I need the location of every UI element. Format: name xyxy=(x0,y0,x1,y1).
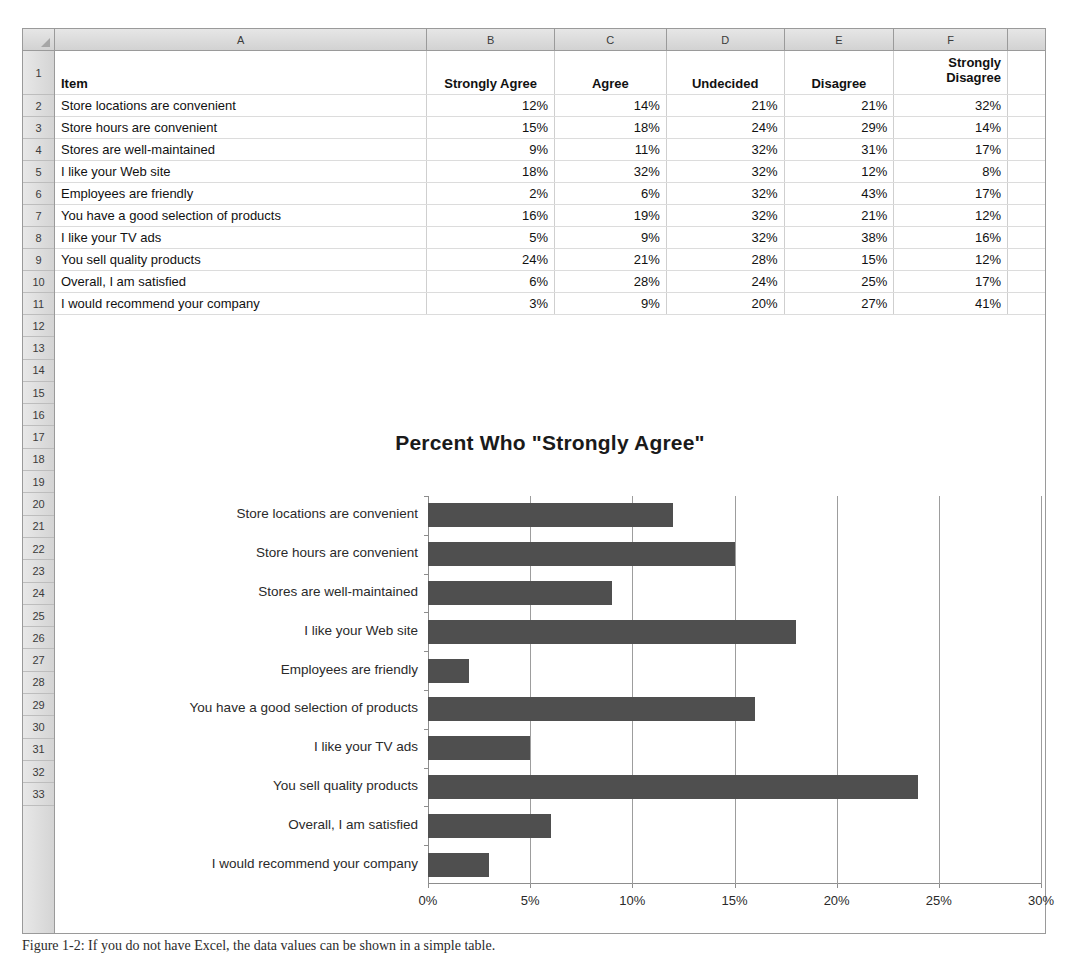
row-number-27[interactable]: 27 xyxy=(23,649,54,671)
cell-e8[interactable]: 38% xyxy=(785,227,895,248)
cell-c6[interactable]: 6% xyxy=(555,183,667,204)
row-number-3[interactable]: 3 xyxy=(23,117,54,139)
row-number-9[interactable]: 9 xyxy=(23,249,54,271)
header-cell-g1[interactable] xyxy=(1008,51,1045,94)
column-header-d[interactable]: D xyxy=(667,29,785,50)
header-cell-d1[interactable]: Undecided xyxy=(667,51,785,94)
row-number-16[interactable]: 16 xyxy=(23,404,54,426)
table-row[interactable]: I like your TV ads5%9%32%38%16% xyxy=(55,227,1045,249)
cell-d10[interactable]: 24% xyxy=(667,271,785,292)
cell-d6[interactable]: 32% xyxy=(667,183,785,204)
table-row[interactable]: Store locations are convenient12%14%21%2… xyxy=(55,95,1045,117)
cell-e4[interactable]: 31% xyxy=(785,139,895,160)
row-number-23[interactable]: 23 xyxy=(23,560,54,582)
cell-e3[interactable]: 29% xyxy=(785,117,895,138)
column-header-e[interactable]: E xyxy=(785,29,895,50)
cell-c10[interactable]: 28% xyxy=(555,271,667,292)
row-number-22[interactable]: 22 xyxy=(23,538,54,560)
chart-bar[interactable] xyxy=(428,620,796,644)
cell-b11[interactable]: 3% xyxy=(427,293,555,314)
cell-a9[interactable]: You sell quality products xyxy=(55,249,427,270)
row-number-10[interactable]: 10 xyxy=(23,271,54,293)
cell-f8[interactable]: 16% xyxy=(894,227,1008,248)
table-row[interactable]: Store hours are convenient15%18%24%29%14… xyxy=(55,117,1045,139)
cell-d5[interactable]: 32% xyxy=(667,161,785,182)
cell-b3[interactable]: 15% xyxy=(427,117,555,138)
cell-g3[interactable] xyxy=(1008,117,1045,138)
cell-g8[interactable] xyxy=(1008,227,1045,248)
cell-c8[interactable]: 9% xyxy=(555,227,667,248)
table-row[interactable]: You sell quality products24%21%28%15%12% xyxy=(55,249,1045,271)
cell-e11[interactable]: 27% xyxy=(785,293,895,314)
chart-bar[interactable] xyxy=(428,503,673,527)
cell-b6[interactable]: 2% xyxy=(427,183,555,204)
row-number-7[interactable]: 7 xyxy=(23,205,54,227)
cell-d2[interactable]: 21% xyxy=(667,95,785,116)
cell-g10[interactable] xyxy=(1008,271,1045,292)
cell-a6[interactable]: Employees are friendly xyxy=(55,183,427,204)
column-header-f[interactable]: F xyxy=(894,29,1008,50)
column-header-g[interactable] xyxy=(1008,29,1045,50)
cell-f5[interactable]: 8% xyxy=(894,161,1008,182)
row-number-1[interactable]: 1 xyxy=(23,51,54,95)
row-number-31[interactable]: 31 xyxy=(23,739,54,761)
row-number-12[interactable]: 12 xyxy=(23,315,54,337)
cell-c5[interactable]: 32% xyxy=(555,161,667,182)
column-header-c[interactable]: C xyxy=(555,29,667,50)
row-number-21[interactable]: 21 xyxy=(23,516,54,538)
cell-a8[interactable]: I like your TV ads xyxy=(55,227,427,248)
cell-e9[interactable]: 15% xyxy=(785,249,895,270)
row-number-4[interactable]: 4 xyxy=(23,139,54,161)
cell-f9[interactable]: 12% xyxy=(894,249,1008,270)
chart-bar[interactable] xyxy=(428,542,735,566)
select-all-corner[interactable] xyxy=(23,29,55,50)
row-number-18[interactable]: 18 xyxy=(23,449,54,471)
cell-e5[interactable]: 12% xyxy=(785,161,895,182)
cell-e6[interactable]: 43% xyxy=(785,183,895,204)
cell-b4[interactable]: 9% xyxy=(427,139,555,160)
table-row[interactable]: Stores are well-maintained9%11%32%31%17% xyxy=(55,139,1045,161)
cell-g6[interactable] xyxy=(1008,183,1045,204)
cell-c7[interactable]: 19% xyxy=(555,205,667,226)
cell-d3[interactable]: 24% xyxy=(667,117,785,138)
cell-g2[interactable] xyxy=(1008,95,1045,116)
chart-bar[interactable] xyxy=(428,853,489,877)
chart-bar[interactable] xyxy=(428,581,612,605)
cell-g9[interactable] xyxy=(1008,249,1045,270)
row-number-20[interactable]: 20 xyxy=(23,493,54,515)
row-number-32[interactable]: 32 xyxy=(23,761,54,783)
row-number-15[interactable]: 15 xyxy=(23,382,54,404)
chart-bar[interactable] xyxy=(428,775,918,799)
header-cell-c1[interactable]: Agree xyxy=(555,51,667,94)
cell-c11[interactable]: 9% xyxy=(555,293,667,314)
cell-f7[interactable]: 12% xyxy=(894,205,1008,226)
cell-f11[interactable]: 41% xyxy=(894,293,1008,314)
row-number-5[interactable]: 5 xyxy=(23,161,54,183)
row-number-11[interactable]: 11 xyxy=(23,293,54,315)
cell-d11[interactable]: 20% xyxy=(667,293,785,314)
table-row[interactable]: You have a good selection of products16%… xyxy=(55,205,1045,227)
cell-f3[interactable]: 14% xyxy=(894,117,1008,138)
cell-g5[interactable] xyxy=(1008,161,1045,182)
cell-g11[interactable] xyxy=(1008,293,1045,314)
cell-b8[interactable]: 5% xyxy=(427,227,555,248)
row-number-30[interactable]: 30 xyxy=(23,716,54,738)
row-number-17[interactable]: 17 xyxy=(23,426,54,448)
cell-a10[interactable]: Overall, I am satisfied xyxy=(55,271,427,292)
cell-b7[interactable]: 16% xyxy=(427,205,555,226)
row-number-8[interactable]: 8 xyxy=(23,227,54,249)
row-number-19[interactable]: 19 xyxy=(23,471,54,493)
cell-f2[interactable]: 32% xyxy=(894,95,1008,116)
cell-f6[interactable]: 17% xyxy=(894,183,1008,204)
cell-e7[interactable]: 21% xyxy=(785,205,895,226)
cell-b2[interactable]: 12% xyxy=(427,95,555,116)
chart-bar[interactable] xyxy=(428,659,469,683)
cell-e2[interactable]: 21% xyxy=(785,95,895,116)
row-number-28[interactable]: 28 xyxy=(23,672,54,694)
table-row[interactable]: I would recommend your company3%9%20%27%… xyxy=(55,293,1045,315)
header-cell-f1[interactable]: StronglyDisagree xyxy=(894,51,1008,94)
cell-a3[interactable]: Store hours are convenient xyxy=(55,117,427,138)
row-number-13[interactable]: 13 xyxy=(23,337,54,359)
cell-f4[interactable]: 17% xyxy=(894,139,1008,160)
chart-bar[interactable] xyxy=(428,697,755,721)
